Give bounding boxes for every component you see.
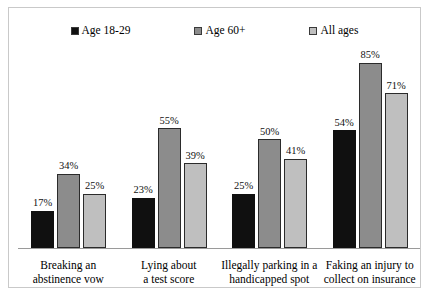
chart-legend: Age 18-29 Age 60+ All ages — [9, 21, 420, 41]
chart-frame: Age 18-29 Age 60+ All ages 17%34%25%23%5… — [8, 7, 421, 288]
x-axis-line — [18, 248, 420, 249]
legend-swatch-icon — [194, 27, 202, 35]
bar-group: 17%34%25% — [18, 41, 119, 248]
bar-column[interactable]: 85% — [359, 41, 382, 248]
category-label: Faking an injury tocollect on insurance — [320, 259, 421, 286]
bar[interactable] — [158, 128, 181, 248]
category-label-line: a test score — [119, 273, 220, 287]
bar-group: 25%50%41% — [219, 41, 320, 248]
category-label-line: handicapped spot — [219, 273, 320, 287]
category-label-line: collect on insurance — [320, 273, 421, 287]
category-label: Breaking anabstinence vow — [18, 259, 119, 286]
bar-value-label: 50% — [260, 127, 279, 138]
bar-value-label: 71% — [386, 81, 405, 92]
legend-entry-age-60-plus: Age 60+ — [194, 25, 245, 37]
bar[interactable] — [132, 198, 155, 248]
bar-value-label: 23% — [133, 185, 152, 196]
bar-value-label: 54% — [334, 118, 353, 129]
bar-value-label: 17% — [33, 198, 52, 209]
bar[interactable] — [83, 194, 106, 248]
legend-label-age-18-29: Age 18-29 — [82, 25, 131, 37]
bar[interactable] — [57, 174, 80, 248]
bar[interactable] — [385, 93, 408, 248]
bar-value-label: 39% — [185, 151, 204, 162]
category-label: Illegally parking in ahandicapped spot — [219, 259, 320, 286]
bar[interactable] — [232, 194, 255, 248]
category-label-line: Faking an injury to — [320, 259, 421, 273]
category-label-line: Lying about — [119, 259, 220, 273]
legend-swatch-icon — [309, 27, 317, 35]
bar-column[interactable]: 25% — [83, 41, 106, 248]
bar-column[interactable]: 54% — [333, 41, 356, 248]
bar-value-label: 25% — [85, 181, 104, 192]
bar-column[interactable]: 71% — [385, 41, 408, 248]
category-label-line: abstinence vow — [18, 273, 119, 287]
legend-label-all-ages: All ages — [320, 25, 358, 37]
bar-group: 54%85%71% — [320, 41, 421, 248]
category-label-line: Breaking an — [18, 259, 119, 273]
bar-column[interactable]: 39% — [184, 41, 207, 248]
bar-value-label: 85% — [360, 50, 379, 61]
bar-value-label: 41% — [286, 146, 305, 157]
bar-column[interactable]: 50% — [258, 41, 281, 248]
bar-value-label: 34% — [59, 161, 78, 172]
bar-column[interactable]: 25% — [232, 41, 255, 248]
bar[interactable] — [284, 159, 307, 248]
bar[interactable] — [184, 163, 207, 248]
bar-column[interactable]: 55% — [158, 41, 181, 248]
bar[interactable] — [258, 139, 281, 248]
bar[interactable] — [333, 130, 356, 248]
bar[interactable] — [31, 211, 54, 248]
bar-column[interactable]: 17% — [31, 41, 54, 248]
bar-value-label: 25% — [234, 181, 253, 192]
legend-label-age-60-plus: Age 60+ — [205, 25, 245, 37]
bar-column[interactable]: 41% — [284, 41, 307, 248]
bar-column[interactable]: 23% — [132, 41, 155, 248]
bar-value-label: 55% — [159, 116, 178, 127]
category-axis-labels: Breaking anabstinence vowLying abouta te… — [18, 255, 420, 289]
category-label-line: Illegally parking in a — [219, 259, 320, 273]
legend-entry-age-18-29: Age 18-29 — [71, 25, 131, 37]
bar-group: 23%55%39% — [119, 41, 220, 248]
legend-entry-all-ages: All ages — [309, 25, 358, 37]
bar-column[interactable]: 34% — [57, 41, 80, 248]
bar[interactable] — [359, 63, 382, 248]
category-label: Lying abouta test score — [119, 259, 220, 286]
legend-swatch-icon — [71, 27, 79, 35]
plot-area: 17%34%25%23%55%39%25%50%41%54%85%71% — [18, 41, 420, 249]
